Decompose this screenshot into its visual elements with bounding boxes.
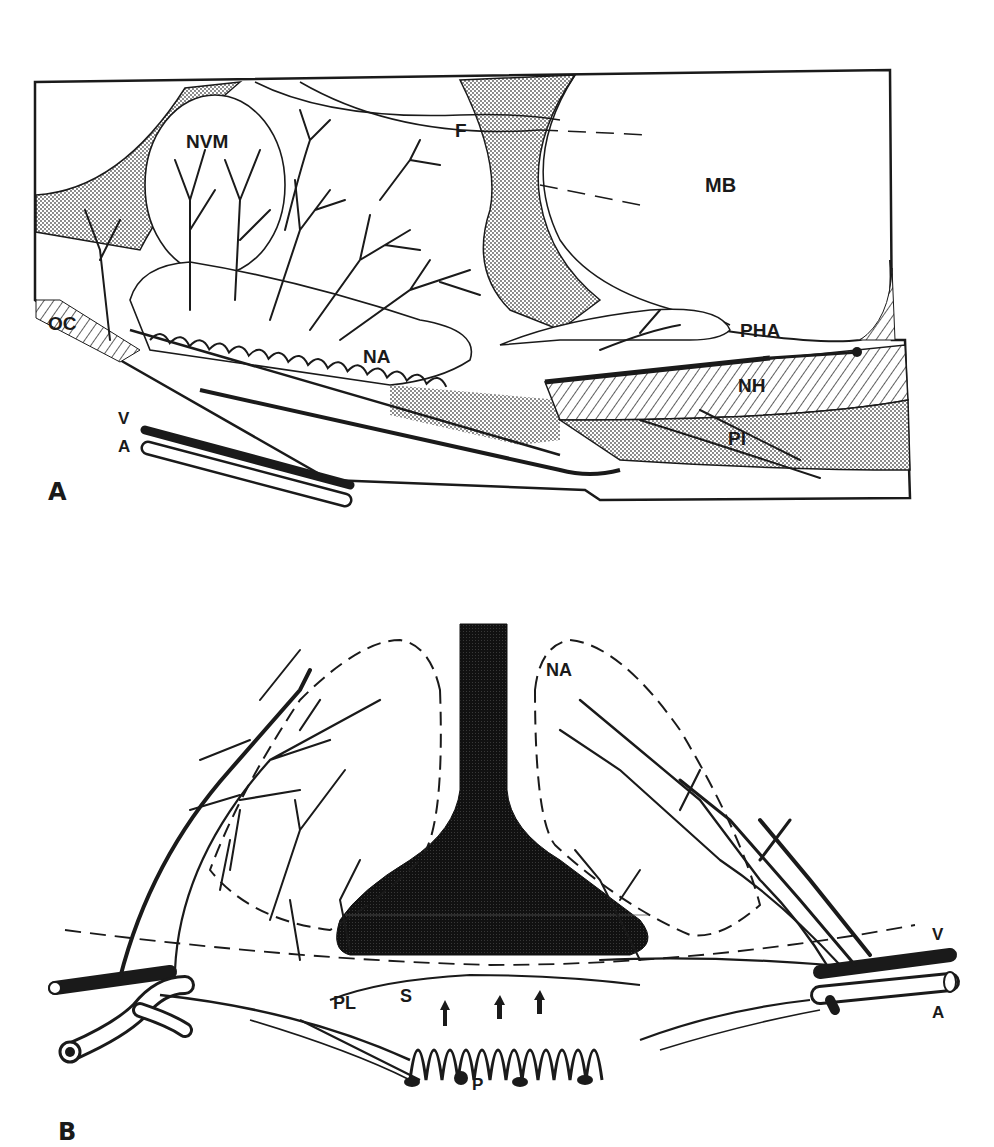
label-na-b: NA <box>546 660 572 680</box>
label-f: F <box>455 120 467 141</box>
label-nvm: NVM <box>186 131 228 152</box>
label-pl: PL <box>333 993 356 1013</box>
label-na: NA <box>363 346 391 367</box>
label-a: A <box>118 437 130 456</box>
label-v-b: V <box>932 925 944 944</box>
capillary-loops <box>410 1050 602 1080</box>
label-pha: PHA <box>740 320 780 341</box>
label-oc: OC <box>48 313 77 334</box>
third-ventricle <box>337 624 648 955</box>
figure-canvas: NVM F MB OC NA PHA NH PI V A A <box>0 0 994 1147</box>
label-a-b: A <box>932 1003 944 1022</box>
label-p: P <box>472 1075 483 1094</box>
label-v: V <box>118 409 130 428</box>
panel-letter-a: A <box>48 478 67 506</box>
panel-letter-b: B <box>58 1118 76 1146</box>
panel-a-sagittal-diagram: NVM F MB OC NA PHA NH PI V A A <box>35 70 910 506</box>
label-nh: NH <box>738 375 765 396</box>
label-mb: MB <box>705 174 736 196</box>
nvm-region <box>145 95 285 275</box>
label-s: S <box>400 986 412 1006</box>
label-pi: PI <box>728 428 746 449</box>
panel-b-transverse-diagram: NA PL S P V A B <box>49 624 956 1146</box>
